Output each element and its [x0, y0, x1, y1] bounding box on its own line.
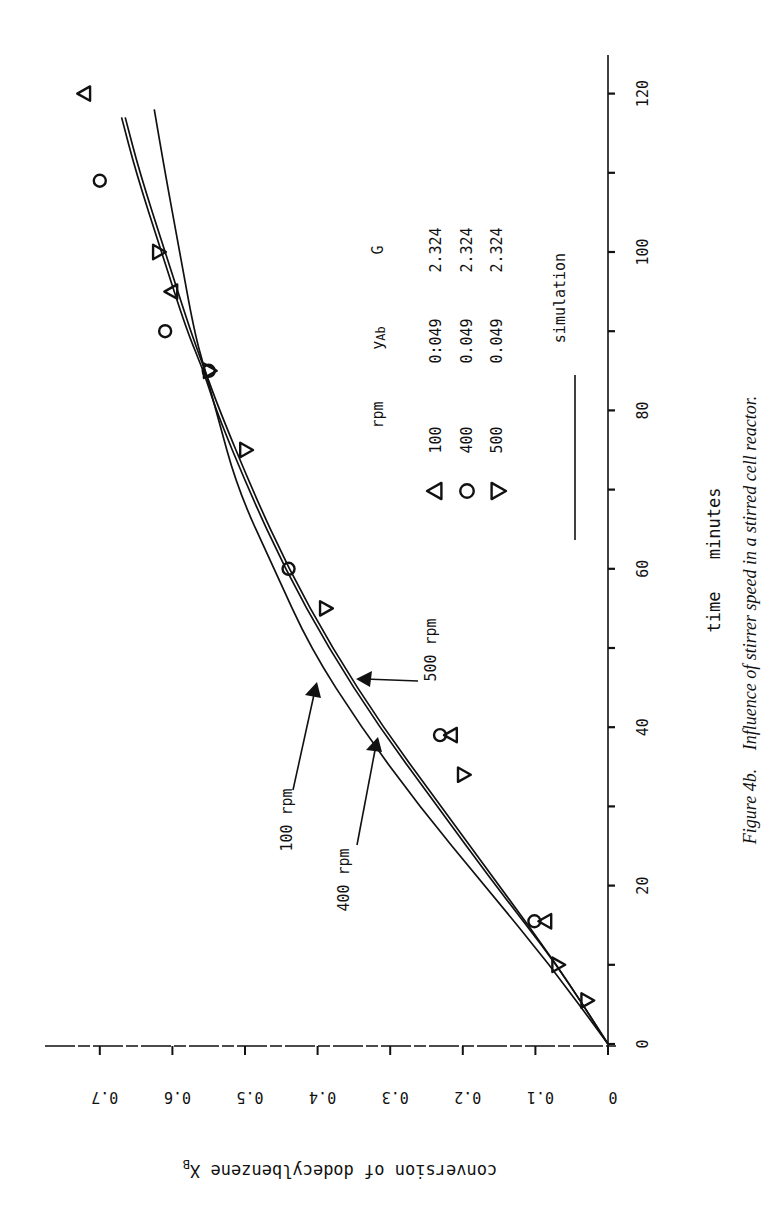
conversion-axis-title: conversion of dodecylbenzene XB: [183, 1157, 497, 1181]
conversion-tick-label: 0.1: [527, 1088, 554, 1106]
conversion-tick-label: 0.3: [382, 1088, 409, 1106]
svg-text:0.5: 0.5: [236, 1088, 263, 1106]
svg-text:time minutes: time minutes: [704, 488, 724, 633]
svg-text:20: 20: [634, 877, 652, 895]
triangle-down-marker: [581, 993, 594, 1007]
time-axis-label: time: [704, 591, 724, 632]
svg-text:400: 400: [458, 426, 476, 453]
triangle-down-marker: [240, 443, 253, 457]
time-tick-label: 0: [634, 1039, 652, 1048]
figure: 020406080100120 00.10.20.30.40.50.60.7 t…: [0, 0, 768, 1231]
svg-text:0.049: 0.049: [488, 318, 506, 363]
legend-yab-400: 0.049: [458, 318, 476, 363]
conversion-tick-label: 0.4: [309, 1088, 336, 1106]
legend-rpm-100: 100: [427, 426, 445, 453]
triangle-down-marker: [458, 768, 471, 782]
conversion-tick-label: 0.6: [164, 1088, 191, 1106]
conversion-tick-label: 0: [608, 1088, 617, 1106]
simulation-curve: [122, 117, 608, 1044]
circle-marker: [94, 175, 106, 187]
time-axis: 020406080100120: [608, 55, 652, 1052]
caption-label: Figure 4b.: [740, 769, 760, 845]
time-tick-label: 120: [634, 80, 652, 107]
triangle-up-marker: [77, 86, 90, 100]
svg-text:0.2: 0.2: [454, 1088, 481, 1106]
annotation-100rpm: 100 rpm: [278, 682, 321, 852]
conversion-axis-subscript: B: [183, 1157, 190, 1171]
svg-text:80: 80: [634, 401, 652, 419]
legend-simulation-label: simulation: [551, 253, 569, 343]
svg-text:60: 60: [634, 560, 652, 578]
circle-marker: [159, 325, 171, 337]
time-tick-label: 100: [634, 238, 652, 265]
triangle-up-marker: [164, 284, 177, 298]
triangle-down-marker: [492, 483, 506, 499]
label-100rpm: 100 rpm: [278, 788, 296, 851]
legend-rpm-400: 400: [458, 426, 476, 453]
svg-text:0.3: 0.3: [382, 1088, 409, 1106]
legend-header-rpm: rpm: [369, 401, 387, 428]
time-axis-unit: minutes: [704, 488, 724, 560]
conversion-tick-label: 0.5: [236, 1088, 263, 1106]
caption-text: Influence of stirrer speed in a stirred …: [740, 396, 760, 751]
svg-text:2.324: 2.324: [488, 227, 506, 272]
legend-yab-100: 0:049: [427, 318, 445, 363]
legend-header-yab: yAb: [369, 326, 388, 349]
time-tick-label: 40: [634, 718, 652, 736]
label-400rpm: 400 rpm: [335, 848, 353, 911]
simulation-curves: [122, 109, 608, 1044]
svg-text:rpm: rpm: [369, 401, 387, 428]
time-tick-label: 60: [634, 560, 652, 578]
svg-text:yAb: yAb: [369, 326, 388, 349]
label-500rpm: 500 rpm: [422, 618, 440, 681]
legend-g-500: 2.324: [488, 227, 506, 272]
conversion-axis: 00.10.20.30.40.50.60.7: [45, 1046, 618, 1106]
svg-text:120: 120: [634, 80, 652, 107]
svg-text:0.7: 0.7: [91, 1088, 118, 1106]
triangle-up-marker: [427, 483, 441, 499]
svg-text:Figure 4b. Influence o: Figure 4b. Influence of stirrer speed in…: [740, 396, 760, 845]
time-axis-title: time minutes: [704, 488, 724, 633]
legend-header-g: G: [369, 245, 387, 254]
chart-canvas: 020406080100120 00.10.20.30.40.50.60.7 t…: [0, 0, 768, 1231]
legend: rpmyAbG1000:0492.3244000.0492.3245000.04…: [369, 227, 575, 540]
svg-text:G: G: [369, 245, 387, 254]
conversion-tick-label: 0.7: [91, 1088, 118, 1106]
time-tick-label: 80: [634, 401, 652, 419]
svg-text:2.324: 2.324: [427, 227, 445, 272]
legend-rpm-500: 500: [488, 426, 506, 453]
conversion-axis-label: conversion of dodecylbenzene X: [189, 1161, 497, 1181]
legend-yab-500: 0.049: [488, 318, 506, 363]
svg-text:0: 0: [634, 1039, 652, 1048]
triangle-down-marker: [320, 601, 333, 615]
svg-text:simulation: simulation: [551, 253, 569, 343]
svg-text:0:049: 0:049: [427, 318, 445, 363]
svg-text:0: 0: [608, 1088, 617, 1106]
circle-marker: [460, 484, 474, 498]
annotation-500rpm: 500 rpm: [356, 618, 440, 687]
svg-text:conversion of dodecylbenzene X: conversion of dodecylbenzene XB: [183, 1157, 497, 1181]
svg-text:0.1: 0.1: [527, 1088, 554, 1106]
svg-text:500: 500: [488, 426, 506, 453]
svg-text:2.324: 2.324: [458, 227, 476, 272]
svg-text:0.049: 0.049: [458, 318, 476, 363]
simulation-curve: [125, 117, 608, 1044]
svg-text:0.4: 0.4: [309, 1088, 336, 1106]
svg-text:100: 100: [634, 238, 652, 265]
figure-caption: Figure 4b. Influence of stirrer speed in…: [740, 396, 760, 845]
legend-g-100: 2.324: [427, 227, 445, 272]
svg-text:100: 100: [427, 426, 445, 453]
time-tick-label: 20: [634, 877, 652, 895]
svg-text:40: 40: [634, 718, 652, 736]
svg-text:0.6: 0.6: [164, 1088, 191, 1106]
legend-g-400: 2.324: [458, 227, 476, 272]
annotation-400rpm: 400 rpm: [335, 737, 382, 912]
conversion-tick-label: 0.2: [454, 1088, 481, 1106]
